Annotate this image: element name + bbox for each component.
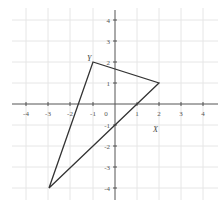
axes <box>12 10 218 200</box>
y-tick-label: 1 <box>107 80 111 88</box>
y-tick-label: 2 <box>107 59 111 67</box>
x-tick-label: -3 <box>45 110 51 118</box>
y-tick-label: -4 <box>104 185 110 193</box>
x-tick-label: 4 <box>201 110 205 118</box>
x-tick-label: -2 <box>67 110 73 118</box>
origin-label: 0 <box>104 110 108 118</box>
y-tick-label: -2 <box>104 143 110 151</box>
coordinate-plane: -4 -3 -2 -1 0 1 2 3 4 4 3 2 1 -1 -2 -3 -… <box>0 0 224 212</box>
x-tick-label: -1 <box>90 110 96 118</box>
x-tick-label: -4 <box>23 110 29 118</box>
x-tick-label: 1 <box>135 110 139 118</box>
y-tick-label: -1 <box>104 122 110 130</box>
x-tick-label: 2 <box>157 110 161 118</box>
x-tick-labels: -4 -3 -2 -1 0 1 2 3 4 <box>23 110 205 118</box>
y-tick-label: 3 <box>107 38 111 46</box>
y-tick-labels: 4 3 2 1 -1 -2 -3 -4 <box>104 17 110 193</box>
x-axis-label: X <box>152 125 159 134</box>
y-tick-label: 4 <box>107 17 111 25</box>
x-tick-label: 3 <box>179 110 183 118</box>
y-tick-label: -3 <box>104 164 110 172</box>
